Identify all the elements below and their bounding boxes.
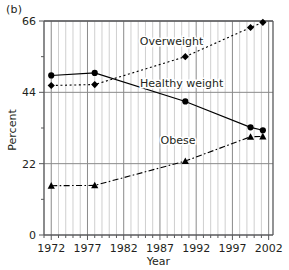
- series-line-obese: [51, 136, 263, 185]
- x-tick-label: 2002: [255, 242, 283, 255]
- x-tick-label: 1982: [110, 242, 138, 255]
- data-point-healthy-weight: [260, 127, 266, 133]
- x-tick-label: 1992: [182, 242, 210, 255]
- data-point-obese: [247, 133, 254, 140]
- series-label-obese: Obese: [161, 134, 196, 147]
- figure-panel-b: (b) 1972197719821987199219972002 0224466…: [0, 0, 289, 270]
- data-point-overweight: [247, 24, 254, 31]
- y-axis-title: Percent: [6, 109, 19, 151]
- data-point-healthy-weight: [48, 72, 54, 78]
- y-tick-label: 0: [29, 229, 36, 242]
- x-axis-title: Year: [146, 255, 171, 268]
- grid-minor-vertical: [44, 21, 261, 235]
- y-tick-label: 22: [22, 158, 36, 171]
- data-point-overweight: [259, 19, 266, 26]
- series-line-overweight: [51, 22, 263, 85]
- data-point-overweight: [48, 82, 55, 89]
- y-axis-tick-labels: 0224466: [22, 15, 36, 242]
- series-label-healthy-weight: Healthy weight: [140, 77, 224, 90]
- y-tick-label: 66: [22, 15, 36, 28]
- x-tick-label: 1977: [73, 242, 101, 255]
- series-label-overweight: Overweight: [140, 35, 204, 48]
- x-tick-label: 1987: [146, 242, 174, 255]
- y-axis-ticks: [39, 21, 44, 235]
- plot-frame: [44, 21, 273, 235]
- x-axis-tick-labels: 1972197719821987199219972002: [37, 242, 282, 255]
- x-tick-label: 1997: [218, 242, 246, 255]
- x-axis-ticks: [44, 235, 269, 240]
- chart-canvas: 1972197719821987199219972002 0224466 Ove…: [0, 0, 289, 270]
- y-tick-label: 44: [22, 86, 36, 99]
- grid-major-vertical: [51, 21, 268, 235]
- data-point-overweight: [182, 53, 189, 60]
- data-point-healthy-weight: [92, 70, 98, 76]
- data-point-overweight: [91, 81, 98, 88]
- data-point-healthy-weight: [182, 98, 188, 104]
- x-tick-label: 1972: [37, 242, 65, 255]
- data-point-obese: [182, 157, 189, 164]
- data-point-healthy-weight: [247, 124, 253, 130]
